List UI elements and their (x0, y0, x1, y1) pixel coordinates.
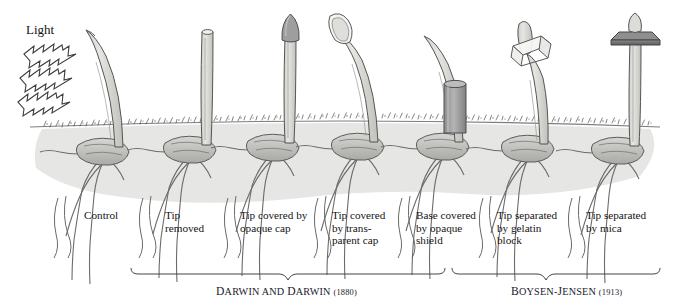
specimen-label-gelatin-block: Tip separated by gelatin block (497, 209, 557, 247)
specimen-label-control: Control (84, 209, 118, 222)
mica-plate (611, 32, 660, 45)
bracket-boysen-jensen (452, 268, 660, 280)
soil-bed (30, 121, 660, 203)
coleoptile-stem (629, 40, 641, 146)
light-rays-group (18, 44, 76, 116)
bracket-caption-bj-year: (1913) (599, 288, 623, 297)
opaque-shield (444, 80, 466, 133)
bracket-caption-bj-initial: B (511, 285, 519, 298)
specimen-label-tip-removed: Tip removed (165, 209, 204, 234)
bracket-caption-bj-rest1: OYSEN- (519, 286, 558, 297)
coleoptile-stump (201, 32, 213, 145)
lightning-arrow-icon (20, 68, 72, 92)
bracket-darwin (131, 268, 445, 280)
lightning-arrow-icon (18, 92, 70, 116)
specimen-label-opaque-cap: Tip covered by opaque cap (240, 209, 307, 234)
bracket-caption-boysen-jensen: BOYSEN-JENSEN (1913) (511, 285, 622, 298)
opaque-cap (282, 14, 299, 42)
lightning-arrow-icon (24, 44, 76, 68)
bracket-caption-darwin-year: (1880) (333, 288, 357, 297)
bracket-caption-darwin-rest2: ARWIN (296, 286, 334, 297)
cut-surface (202, 30, 213, 35)
bracket-caption-darwin-rest1: ARWIN AND (225, 286, 288, 297)
light-label: Light (26, 22, 54, 38)
bracket-caption-darwin-initial2: D (287, 285, 296, 298)
coleoptile (284, 36, 296, 143)
specimen-label-transparent-cap: Tip covered by trans- parent cap (332, 209, 385, 247)
figure-artwork (0, 0, 689, 304)
specimen-label-opaque-shield: Base covered by opaque shield (416, 209, 476, 247)
phototropism-figure: Light Control Tip removed Tip covered by… (0, 0, 689, 304)
bracket-caption-bj-rest2: ENSEN (562, 286, 599, 297)
specimen-3-opaque-cap (211, 14, 299, 280)
specimen-label-mica: Tip separated by mica (586, 209, 646, 234)
bracket-caption-darwin: DARWIN AND DARWIN (1880) (216, 285, 357, 298)
bracket-caption-darwin-initial: D (216, 285, 225, 298)
separated-tip (629, 13, 642, 33)
